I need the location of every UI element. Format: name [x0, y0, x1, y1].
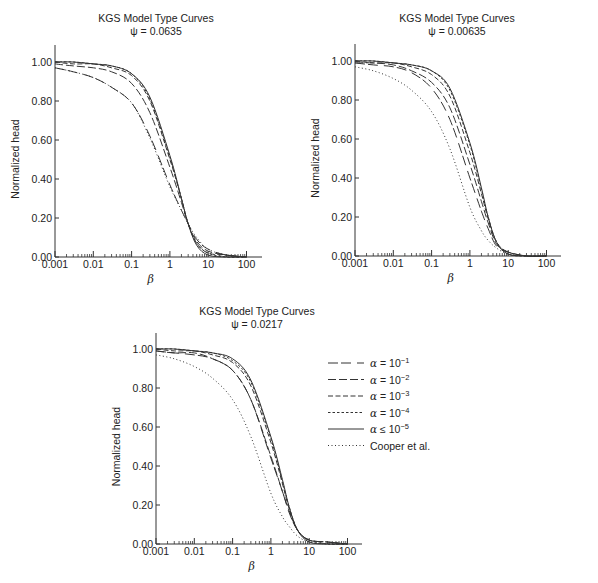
x-tick-label: 0.01 — [184, 545, 205, 557]
x-axis-label: β — [447, 272, 454, 285]
x-tick-label: 100 — [339, 545, 357, 557]
x-axis-label: β — [248, 560, 255, 573]
y-tick-label: 0.20 — [332, 211, 353, 223]
chart-legend: α = 10−1α = 10−2α = 10−3α = 10−4α ≤ 10−5… — [328, 356, 430, 452]
chart-title: KGS Model Type Curves — [98, 12, 213, 24]
legend-label-a2: α = 10−2 — [370, 373, 409, 386]
chart-title: KGS Model Type Curves — [399, 12, 514, 24]
y-tick-label: 0.80 — [133, 382, 154, 394]
y-axis-label: Normalized head — [309, 118, 321, 198]
x-tick-label: 100 — [238, 258, 256, 270]
curve-a3 — [55, 62, 247, 257]
y-tick-label: 0.40 — [332, 172, 353, 184]
y-tick-label: 0.80 — [332, 94, 353, 106]
x-tick-label: 0.001 — [143, 545, 169, 557]
curve-a5 — [156, 349, 348, 544]
legend-label-a4: α = 10−4 — [370, 406, 409, 419]
y-tick-label: 0.60 — [133, 421, 154, 433]
curve-a5 — [355, 61, 547, 256]
chart-subtitle: ψ = 0.0217 — [231, 318, 283, 330]
y-tick-label: 0.20 — [133, 499, 154, 511]
x-tick-label: 100 — [538, 257, 556, 269]
chart-panel-psi-0.0217: KGS Model Type Curves ψ = 0.0217 0.000.2… — [110, 305, 362, 573]
y-tick-label: 0.60 — [32, 134, 53, 146]
curve-a2 — [156, 351, 348, 544]
chart-subtitle: ψ = 0.00635 — [428, 25, 486, 37]
curve-a5 — [55, 62, 247, 257]
chart-subtitle: ψ = 0.0635 — [130, 25, 182, 37]
legend-label-cooper: Cooper et al. — [370, 440, 430, 452]
curve-a1 — [156, 351, 348, 544]
y-tick-label: 0.80 — [32, 95, 53, 107]
x-tick-label: 1 — [167, 258, 173, 270]
x-tick-label: 0.1 — [225, 545, 240, 557]
y-tick-label: 0.60 — [332, 133, 353, 145]
x-axis-label: β — [147, 273, 154, 286]
x-tick-label: 0.01 — [383, 257, 404, 269]
curve-a4 — [156, 349, 348, 544]
legend-label-a1: α = 10−1 — [370, 356, 409, 369]
curve-a3 — [156, 349, 348, 544]
curve-cooper — [355, 67, 547, 256]
y-tick-label: 1.00 — [332, 55, 353, 67]
y-tick-label: 1.00 — [133, 343, 154, 355]
chart-panel-psi-0.00635: KGS Model Type Curves ψ = 0.00635 0.000.… — [309, 12, 561, 285]
x-tick-label: 0.01 — [83, 258, 104, 270]
x-tick-label: 0.1 — [424, 257, 439, 269]
x-tick-label: 0.001 — [42, 258, 68, 270]
x-tick-label: 10 — [303, 545, 315, 557]
x-tick-label: 10 — [202, 258, 214, 270]
curve-a1 — [55, 68, 247, 257]
x-tick-label: 10 — [502, 257, 514, 269]
curve-a2 — [55, 64, 247, 257]
curve-a2 — [355, 63, 547, 257]
chart-title: KGS Model Type Curves — [199, 305, 314, 317]
x-tick-label: 0.001 — [342, 257, 368, 269]
y-axis-label: Normalized head — [9, 119, 21, 199]
x-tick-label: 0.1 — [124, 258, 139, 270]
y-tick-label: 0.20 — [32, 212, 53, 224]
y-tick-label: 0.40 — [32, 173, 53, 185]
y-axis-label: Normalized head — [110, 407, 122, 487]
x-tick-label: 1 — [268, 545, 274, 557]
y-tick-label: 0.40 — [133, 460, 154, 472]
curve-a1 — [355, 63, 547, 256]
legend-label-a5: α ≤ 10−5 — [370, 422, 409, 435]
type-curves-figure: KGS Model Type Curves ψ = 0.0635 0.000.2… — [0, 0, 598, 583]
curve-cooper — [55, 68, 247, 257]
y-tick-label: 1.00 — [32, 56, 53, 68]
curve-a4 — [55, 62, 247, 257]
chart-panel-psi-0.0635: KGS Model Type Curves ψ = 0.0635 0.000.2… — [9, 12, 262, 286]
legend-label-a3: α = 10−3 — [370, 389, 409, 402]
x-tick-label: 1 — [467, 257, 473, 269]
